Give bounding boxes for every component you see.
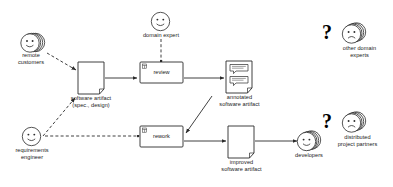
label-remote-customers: remote customers — [0, 52, 62, 65]
question-mark-other-domain-experts: ? — [322, 22, 332, 42]
actor-icon-other-domain-experts[interactable] — [342, 23, 365, 43]
label-domain-expert: domain expert — [126, 32, 196, 39]
artifact-software-artifact[interactable] — [78, 62, 104, 94]
actor-icon-domain-expert[interactable] — [151, 12, 169, 30]
label-other-domain-experts: other domain experts — [326, 45, 393, 58]
label-developers: developers — [281, 152, 337, 159]
actor-icon-requirements-engineer[interactable] — [22, 127, 40, 145]
process-diagram: software artifact (dashed, arrow) --> so… — [0, 0, 393, 187]
artifact-improved-software-artifact[interactable] — [228, 126, 254, 158]
label-activity-review: review — [140, 69, 183, 75]
actor-icon-remote-customers[interactable] — [21, 33, 45, 52]
label-distributed-project-partners: distributed project partners — [322, 134, 393, 147]
label-improved-software-artifact: improved software artifact — [208, 159, 275, 172]
artifact-annotated-software-artifact[interactable] — [226, 61, 252, 93]
actor-icon-distributed-project-partners[interactable] — [342, 112, 365, 132]
label-activity-rework: rework — [140, 133, 183, 139]
label-annotated-software-artifact: annotated software artifact — [206, 94, 273, 107]
label-requirements-engineer: requirements engineer — [0, 147, 64, 160]
question-mark-distributed-project-partners: ? — [322, 111, 332, 131]
label-software-artifact: software artifact (spec., design) — [55, 95, 127, 108]
actor-icon-developers[interactable] — [297, 131, 320, 151]
